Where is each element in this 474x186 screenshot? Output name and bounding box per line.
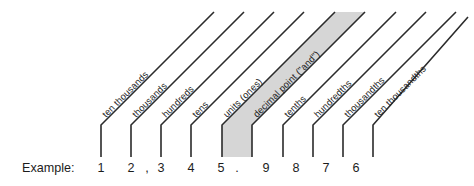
digit-ten-thousandths: 6 (352, 161, 359, 175)
digit-tenths: 9 (262, 161, 269, 175)
digit-tens: 4 (187, 161, 194, 175)
digit-hundredths: 8 (292, 161, 299, 175)
example-row-label: Example: (22, 161, 75, 175)
digit-ten-thousands: 1 (97, 161, 104, 175)
digit-thousands: 2 (127, 161, 134, 175)
digit-units: 5 (217, 161, 224, 175)
decimal-point-separator: . (235, 161, 239, 175)
place-value-diagram: ten thousands thousands hundreds tens un… (0, 0, 474, 186)
place-value-chart: ten thousands thousands hundreds tens un… (0, 0, 474, 186)
digit-thousandths: 7 (322, 161, 329, 175)
digit-hundreds: 3 (157, 161, 164, 175)
thousands-comma-separator: , (145, 161, 149, 175)
